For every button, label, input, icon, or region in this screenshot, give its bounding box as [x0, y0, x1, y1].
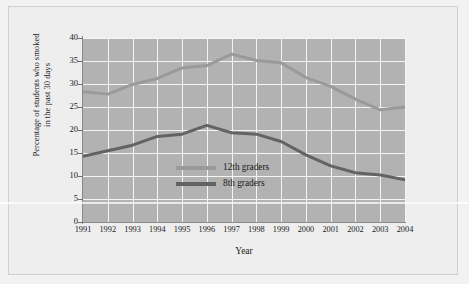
- legend-label: 12th graders: [223, 163, 269, 172]
- y-axis-tick-label: 0: [50, 217, 78, 226]
- x-axis-tick-label: 2004: [388, 226, 422, 234]
- y-axis-tick-mark: [78, 107, 83, 108]
- y-axis-tick-mark: [78, 130, 83, 131]
- y-axis-title-line2: in the past 30 days: [42, 10, 53, 180]
- gridline-vertical: [405, 38, 406, 222]
- legend-label: 8th graders: [223, 179, 265, 188]
- y-axis-tick-label: 30: [50, 79, 78, 88]
- y-axis-tick-label: 5: [50, 194, 78, 203]
- chart-legend: 12th graders8th graders: [176, 160, 269, 192]
- series-lines: [83, 38, 405, 222]
- y-axis-tick-label: 25: [50, 102, 78, 111]
- y-axis-tick-label: 10: [50, 171, 78, 180]
- y-axis-title-line1: Percentage of students who smoked: [31, 10, 42, 180]
- x-axis-title: Year: [83, 246, 405, 256]
- y-axis-tick-mark: [78, 176, 83, 177]
- y-axis-tick-mark: [78, 38, 83, 39]
- y-axis-tick-mark: [78, 199, 83, 200]
- y-axis-tick-mark: [78, 222, 83, 223]
- legend-item: 12th graders: [176, 160, 269, 176]
- series-line-12th-graders: [83, 54, 405, 110]
- legend-swatch-icon: [176, 182, 216, 186]
- y-axis-tick-label: 40: [50, 33, 78, 42]
- legend-item: 8th graders: [176, 176, 269, 192]
- legend-swatch-icon: [176, 166, 216, 170]
- y-axis-title: Percentage of students who smoked in the…: [31, 10, 53, 180]
- y-axis-tick-mark: [78, 84, 83, 85]
- y-axis-tick-mark: [78, 61, 83, 62]
- chart-figure: 0510152025303540 Percentage of students …: [0, 0, 469, 284]
- x-axis-line: [82, 222, 406, 223]
- y-axis-tick-mark: [78, 153, 83, 154]
- y-axis-tick-label: 15: [50, 148, 78, 157]
- y-axis-tick-label: 35: [50, 56, 78, 65]
- y-axis-tick-label: 20: [50, 125, 78, 134]
